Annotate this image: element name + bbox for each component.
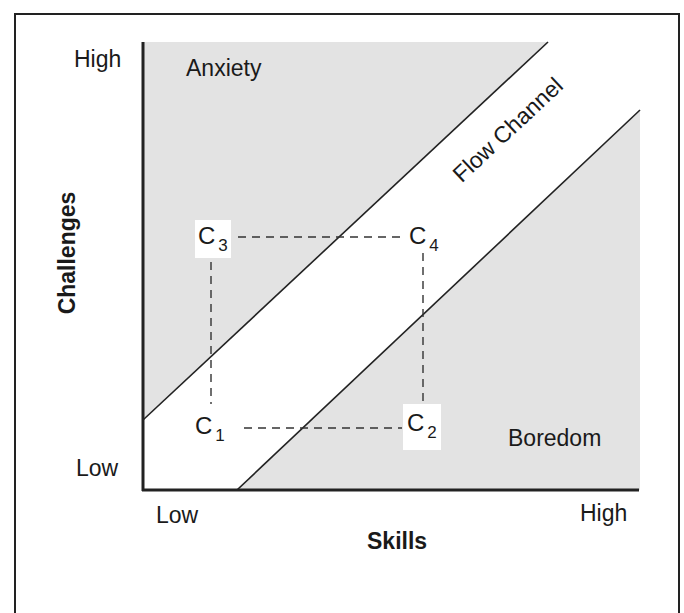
point-c4-main: C [409,222,426,249]
y-axis-low-label: Low [76,457,118,480]
x-axis-high-label: High [580,502,627,525]
boredom-label: Boredom [508,427,601,450]
point-c3-main: C [198,222,215,249]
x-axis-title: Skills [367,530,427,553]
y-axis-high-label: High [74,48,121,71]
y-axis-title: Challenges [56,192,79,315]
point-c2: C2 [403,404,441,450]
point-c4-sub: 4 [429,236,438,255]
point-c3-sub: 3 [218,236,227,255]
point-c2-sub: 2 [427,423,436,442]
point-c1: C1 [192,410,228,448]
point-c2-main: C [407,409,424,436]
point-c3: C3 [195,220,231,258]
point-c1-main: C [195,412,212,439]
anxiety-label: Anxiety [186,57,261,80]
point-c4: C4 [406,220,442,258]
x-axis-low-label: Low [156,504,198,527]
point-c1-sub: 1 [215,426,224,445]
